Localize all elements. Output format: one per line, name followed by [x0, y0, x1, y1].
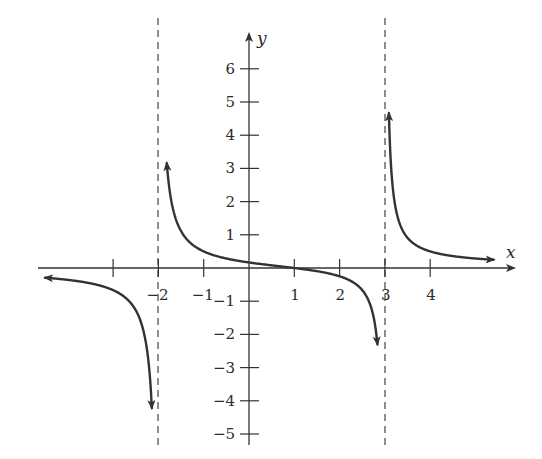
middle-branch: [167, 163, 378, 344]
tick-marks: [113, 69, 430, 434]
y-tick-label: 5: [225, 93, 235, 111]
y-tick-label: 2: [225, 193, 235, 211]
tick-labels: −2−11234−5−4−3−2−1123456: [146, 60, 435, 443]
function-graph: −2−11234−5−4−3−2−1123456 x y: [0, 0, 542, 459]
y-tick-label: 6: [225, 60, 235, 78]
x-tick-label: 3: [381, 286, 391, 304]
function-curves: [45, 113, 493, 408]
x-tick-label: 4: [426, 286, 436, 304]
x-axis-label: x: [506, 242, 516, 262]
y-tick-label: −4: [213, 392, 235, 410]
x-tick-label: −2: [146, 286, 168, 304]
y-tick-label: −2: [213, 325, 235, 343]
left-branch: [45, 278, 152, 408]
x-tick-label: 2: [336, 286, 346, 304]
y-tick-label: −1: [213, 292, 235, 310]
y-tick-label: −3: [213, 359, 235, 377]
y-axis-label: y: [256, 28, 267, 48]
y-tick-label: −5: [213, 425, 235, 443]
right-branch: [389, 113, 494, 260]
y-tick-label: 1: [225, 226, 235, 244]
y-tick-label: 3: [225, 159, 235, 177]
y-tick-label: 4: [225, 126, 235, 144]
axes: [38, 34, 514, 445]
x-tick-label: 1: [290, 286, 300, 304]
asymptotes: [158, 18, 385, 445]
x-tick-label: −1: [192, 286, 214, 304]
